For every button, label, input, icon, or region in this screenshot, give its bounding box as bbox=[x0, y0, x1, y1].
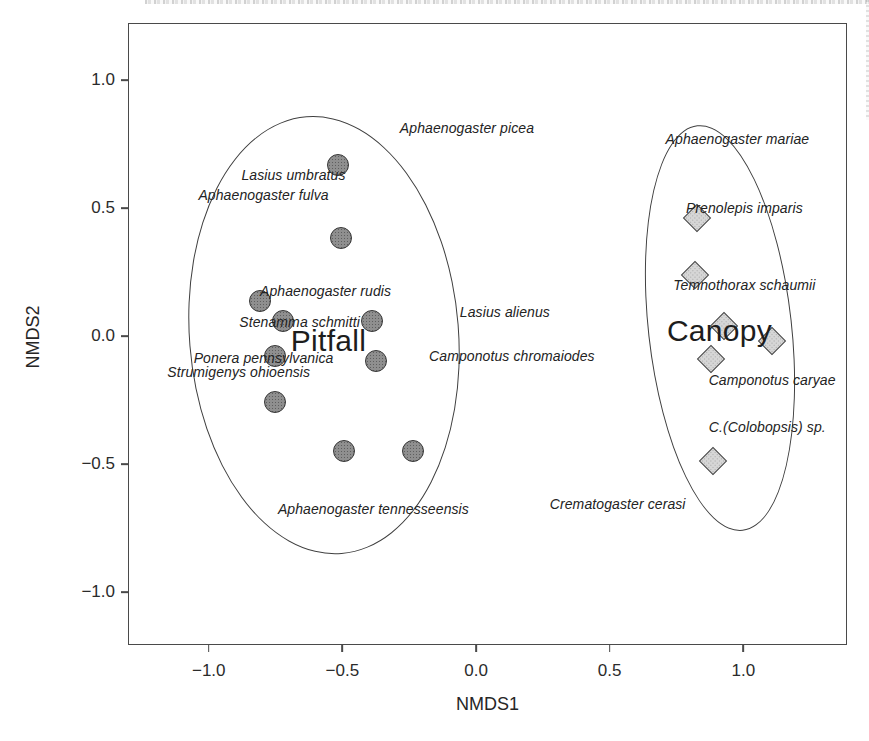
x-tick-label: 0.5 bbox=[598, 661, 622, 681]
x-tick-label: −1.0 bbox=[192, 661, 226, 681]
species-label: C.(Colobopsis) sp. bbox=[709, 419, 826, 435]
x-axis-title: NMDS1 bbox=[456, 694, 519, 715]
data-point-pitfall bbox=[330, 227, 352, 249]
y-axis-title: NMDS2 bbox=[23, 306, 44, 369]
x-tick-mark bbox=[742, 644, 744, 652]
species-label: Prenolepis imparis bbox=[686, 200, 803, 216]
y-tick-label: 1.0 bbox=[91, 70, 115, 90]
x-tick-label: 0.0 bbox=[464, 661, 488, 681]
species-label: Aphaenogaster tennesseensis bbox=[278, 501, 469, 517]
species-label: Aphaenogaster mariae bbox=[666, 131, 810, 147]
y-tick-label: 0.0 bbox=[91, 326, 115, 346]
y-tick-label: −0.5 bbox=[81, 454, 115, 474]
data-point-pitfall bbox=[264, 391, 286, 413]
nmds-ordination-figure: NMDS1 NMDS2 Aphaenogaster piceaLasius um… bbox=[0, 0, 869, 741]
x-tick-label: −0.5 bbox=[326, 661, 360, 681]
data-point-pitfall bbox=[333, 440, 355, 462]
species-label: Camponotus chromaiodes bbox=[429, 348, 595, 364]
plot-area: NMDS1 NMDS2 Aphaenogaster piceaLasius um… bbox=[128, 23, 847, 645]
scan-artifact-top bbox=[145, 0, 869, 4]
x-tick-label: 1.0 bbox=[731, 661, 755, 681]
species-label: Aphaenogaster fulva bbox=[198, 187, 328, 203]
y-tick-label: 0.5 bbox=[91, 198, 115, 218]
y-tick-label: −1.0 bbox=[81, 582, 115, 602]
y-tick-mark bbox=[121, 463, 129, 465]
species-label: Lasius alienus bbox=[460, 304, 550, 320]
species-label: Aphaenogaster rudis bbox=[260, 283, 391, 299]
y-tick-mark bbox=[121, 207, 129, 209]
species-label: Camponotus caryae bbox=[709, 372, 836, 388]
group-label-canopy: Canopy bbox=[667, 314, 772, 348]
x-tick-mark bbox=[208, 644, 210, 652]
data-point-pitfall bbox=[402, 440, 424, 462]
x-tick-mark bbox=[609, 644, 611, 652]
y-tick-mark bbox=[121, 79, 129, 81]
species-label: Temnothorax schaumii bbox=[673, 277, 815, 293]
species-label: Crematogaster cerasi bbox=[550, 496, 686, 512]
data-point-pitfall bbox=[365, 350, 387, 372]
x-tick-mark bbox=[475, 644, 477, 652]
species-label: Strumigenys ohioensis bbox=[167, 364, 310, 380]
group-label-pitfall: Pitfall bbox=[291, 324, 366, 358]
y-tick-mark bbox=[121, 335, 129, 337]
x-tick-mark bbox=[342, 644, 344, 652]
species-label: Lasius umbratus bbox=[241, 167, 345, 183]
y-tick-mark bbox=[121, 591, 129, 593]
species-label: Aphaenogaster picea bbox=[400, 120, 534, 136]
